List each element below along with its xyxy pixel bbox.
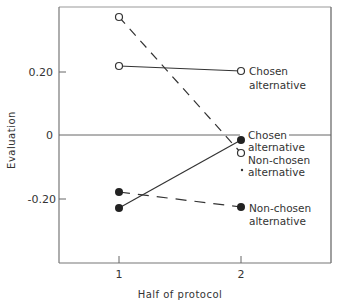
series-label: alternative [249,79,306,91]
series-markers [115,14,245,213]
filled-circle-marker [115,204,123,212]
y-axis: 0.20 0 -0.20 Evaluation [6,66,66,206]
series-label: Chosen [248,129,287,141]
series-label: alternative [249,215,306,227]
series-label: Non-chosen [248,154,310,166]
series-filled-nonchosen-line [119,192,241,207]
line-chart: 0.20 0 -0.20 Evaluation 1 2 Half of prot… [0,0,338,308]
y-tick-label: -0.20 [28,193,56,206]
open-circle-marker [238,150,245,157]
open-circle-marker [116,63,123,70]
filled-circle-marker [115,188,123,196]
series-labels: Chosen alternative Chosen alternative No… [248,65,311,227]
series-label: alternative [248,166,305,178]
x-axis-title: Half of protocol [138,289,223,300]
y-tick-label: 0 [46,129,53,142]
y-axis-title: Evaluation [6,111,17,169]
y-tick-label: 0.20 [29,66,54,79]
series-lines [119,17,241,208]
filled-circle-marker [237,203,245,211]
series-label: Non-chosen [249,202,311,214]
x-tick-label: 1 [116,268,123,281]
open-circle-marker [116,14,123,21]
small-dot-marker [241,169,243,171]
series-label: alternative [248,141,305,153]
open-circle-marker [238,68,245,75]
x-tick-label: 2 [238,268,245,281]
series-open-chosen-line [119,66,241,71]
filled-circle-marker [237,136,245,144]
series-label: Chosen [249,65,288,77]
series-filled-chosen-line [119,140,241,208]
series-open-nonchosen-line [119,17,241,153]
